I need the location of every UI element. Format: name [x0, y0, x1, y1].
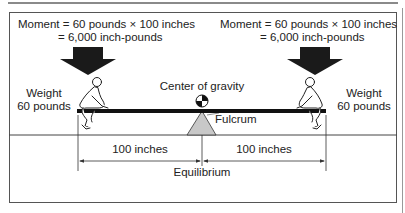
left-person-figure	[80, 78, 108, 130]
left-weight-value: 60 pounds	[16, 100, 72, 113]
right-weight-title: Weight	[336, 87, 392, 100]
left-weight-title: Weight	[16, 87, 72, 100]
right-moment-result: = 6,000 inch-pounds	[260, 31, 365, 44]
left-moment-equation: Moment = 60 pounds × 100 inches	[18, 18, 195, 31]
right-person-figure	[297, 78, 322, 130]
left-moment-result: = 6,000 inch-pounds	[58, 31, 163, 44]
left-force-arrow-icon	[60, 47, 116, 75]
left-weight-label: Weight 60 pounds	[16, 87, 72, 113]
center-of-gravity-label: Center of gravity	[152, 80, 252, 93]
equilibrium-label: Equilibrium	[162, 166, 242, 179]
right-distance-label: 100 inches	[224, 143, 304, 156]
fulcrum-triangle	[187, 111, 216, 135]
seesaw-beam	[77, 109, 326, 113]
center-of-gravity-icon	[196, 95, 208, 107]
right-weight-label: Weight 60 pounds	[336, 87, 392, 113]
right-force-arrow-icon	[287, 47, 343, 75]
fulcrum-label: Fulcrum	[215, 113, 257, 126]
left-distance-label: 100 inches	[100, 143, 180, 156]
right-moment-equation: Moment = 60 pounds × 100 inches	[220, 18, 397, 31]
right-weight-value: 60 pounds	[336, 100, 392, 113]
